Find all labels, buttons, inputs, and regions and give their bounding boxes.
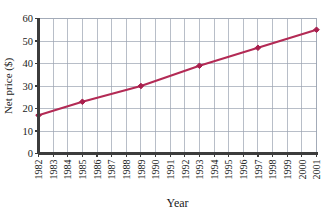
x-tick-label: 1990 [150,160,161,180]
x-tick-label: 1991 [165,160,176,180]
x-tick-label: 1996 [238,160,249,180]
x-tick-label: 1987 [106,160,117,180]
y-tick-label: 50 [23,36,34,47]
line-chart: 0102030405060198219831984198519861987198… [0,0,323,213]
x-tick-label: 1989 [136,160,147,180]
x-tick-label: 2001 [311,160,322,180]
x-tick-label: 1988 [121,160,132,180]
x-tick-label: 1983 [48,160,59,180]
x-tick-label: 1985 [77,160,88,180]
x-tick-label: 1999 [282,160,293,180]
y-tick-label: 60 [23,13,34,24]
x-tick-label: 1982 [33,160,44,180]
y-tick-label: 30 [23,81,34,92]
x-tick-label: 2000 [297,160,308,180]
y-tick-label: 10 [23,126,34,137]
x-axis-title: Year [166,196,188,210]
x-tick-label: 1984 [62,160,73,180]
chart-container: 0102030405060198219831984198519861987198… [0,0,323,213]
y-axis-title: Net price ($) [2,58,15,115]
y-tick-label: 0 [28,148,33,159]
x-tick-label: 1994 [209,160,220,180]
x-tick-label: 1993 [194,160,205,180]
y-tick-label: 40 [23,58,34,69]
x-tick-label: 1998 [267,160,278,180]
x-tick-label: 1997 [253,160,264,180]
x-tick-label: 1995 [223,160,234,180]
x-tick-label: 1992 [180,160,191,180]
y-tick-label: 20 [23,103,34,114]
x-tick-label: 1986 [92,160,103,180]
